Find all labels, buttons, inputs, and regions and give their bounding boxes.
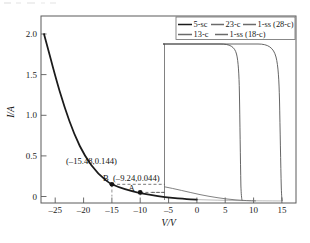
figure-container: –25 –20 –15 –10 –5 0 5 10 15 0 0.5 1.0 1… — [0, 0, 310, 243]
y-tick-label: 1.0 — [26, 110, 38, 120]
x-tick-label: 15 — [277, 205, 287, 215]
marker-point-a — [138, 190, 143, 195]
x-tick-label: –15 — [104, 205, 119, 215]
x-tick-label: 10 — [249, 205, 259, 215]
x-tick-label: –25 — [47, 205, 62, 215]
x-tick-label: –10 — [132, 205, 147, 215]
y-tick-labels: 0 0.5 1.0 1.5 2.0 — [26, 29, 38, 202]
annotation-b-coords: (–15.48,0.144) — [66, 156, 117, 166]
x-tick-label: 5 — [223, 205, 228, 215]
x-tick-label: –20 — [76, 205, 91, 215]
x-tick-label: 0 — [195, 205, 200, 215]
y-tick-label: 2.0 — [26, 29, 38, 39]
annotation-a-coords: (–9.24,0.044) — [113, 173, 160, 183]
legend-label-5sc: 5-sc — [194, 20, 208, 29]
iv-characteristic-chart: –25 –20 –15 –10 –5 0 5 10 15 0 0.5 1.0 1… — [0, 0, 310, 243]
y-axis-ticks — [41, 34, 47, 197]
legend-label-13c: 13-c — [194, 30, 209, 39]
y-tick-label: 1.5 — [26, 70, 38, 80]
legend: 5-sc 23-c 1-ss (28-c) 13-c 1-ss (18-c) — [176, 17, 295, 40]
curve-23c — [164, 44, 243, 200]
curve-1ss-28c — [164, 44, 283, 201]
y-axis-title: I/A — [6, 106, 16, 119]
annotation-a-label: A — [129, 183, 136, 193]
y-tick-label: 0 — [33, 192, 38, 202]
x-tick-labels: –25 –20 –15 –10 –5 0 5 10 15 — [47, 205, 286, 215]
legend-label-23c: 23-c — [226, 20, 241, 29]
legend-label-1ss-18c: 1-ss (18-c) — [230, 30, 266, 39]
legend-label-1ss-28c: 1-ss (28-c) — [258, 20, 294, 29]
scan-noise — [4, 2, 56, 4]
x-tick-label: –5 — [163, 205, 174, 215]
y-tick-label: 0.5 — [26, 151, 38, 161]
x-axis-title: V/V — [161, 218, 176, 228]
annotation-b-label: B — [103, 173, 109, 183]
